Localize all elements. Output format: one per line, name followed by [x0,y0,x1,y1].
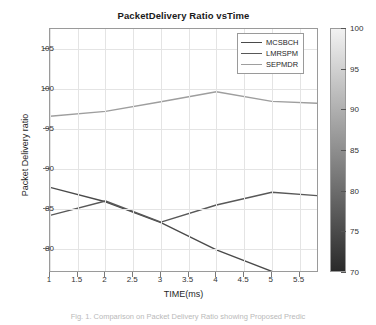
gridline-vertical [50,29,51,271]
x-tick-label: 1.5 [71,275,82,284]
x-tick-label: 2 [102,275,106,284]
legend-label: SEPMDR [266,59,298,70]
legend-swatch [241,42,262,43]
colorbar-tick-mark [341,272,346,273]
series-line [50,192,318,222]
colorbar-tick-label: 70 [350,268,359,277]
gridline-vertical [161,29,162,271]
legend-item[interactable]: LMRSPM [241,48,299,59]
x-tick-label: 2.5 [127,275,138,284]
colorbar-tick-mark [341,150,346,151]
y-tick-label: 100 [41,84,54,93]
colorbar-tick-label: 75 [350,227,359,236]
legend-swatch [241,53,262,54]
y-tick-label: 95 [45,124,54,133]
colorbar-tick-label: 80 [350,186,359,195]
gridline-horizontal [50,89,317,90]
colorbar-tick-mark [341,191,346,192]
x-tick-label: 1 [47,275,51,284]
colorbar-tick-label: 85 [350,146,359,155]
gridline-horizontal [50,129,317,130]
gridline-horizontal [50,169,317,170]
gridline-vertical [216,29,217,271]
x-tick-label: 3 [158,275,162,284]
colorbar-tick-label: 95 [350,64,359,73]
chart-figure: PacketDelivery Ratio vsTime Packet Deliv… [0,0,376,325]
gridline-horizontal [50,249,317,250]
colorbar-tick-label: 100 [350,24,363,33]
x-tick-label: 5.5 [293,275,304,284]
colorbar-tick-label: 90 [350,105,359,114]
colorbar-tick-mark [341,69,346,70]
gridline-vertical [78,29,79,271]
y-tick-label: 85 [45,204,54,213]
figure-caption: Fig. 1. Comparison on Packet Delivery Ra… [0,312,376,321]
y-tick-label: 90 [45,164,54,173]
colorbar-tick-mark [341,109,346,110]
gridline-vertical [105,29,106,271]
x-tick-label: 4.5 [238,275,249,284]
gridline-vertical [133,29,134,271]
colorbar-tick-mark [341,231,346,232]
legend-label: LMRSPM [266,48,298,59]
x-tick-label: 5 [269,275,273,284]
gridline-horizontal [50,209,317,210]
legend-swatch [241,64,262,65]
x-tick-label: 4 [213,275,217,284]
y-tick-label: 80 [45,244,54,253]
x-axis-label: TIME(ms) [49,289,318,299]
legend-label: MCSBCH [266,37,299,48]
legend-item[interactable]: MCSBCH [241,37,299,48]
series-line [50,92,318,116]
y-tick-label: 105 [41,44,54,53]
series-line [50,187,318,272]
colorbar-tick-mark [341,28,346,29]
chart-title: PacketDelivery Ratio vsTime [49,10,318,21]
legend-item[interactable]: SEPMDR [241,59,299,70]
y-axis-label: Packet Delivery ratio [20,70,30,240]
x-tick-label: 3.5 [182,275,193,284]
legend: MCSBCHLMRSPMSEPMDR [237,33,304,74]
gridline-vertical [189,29,190,271]
